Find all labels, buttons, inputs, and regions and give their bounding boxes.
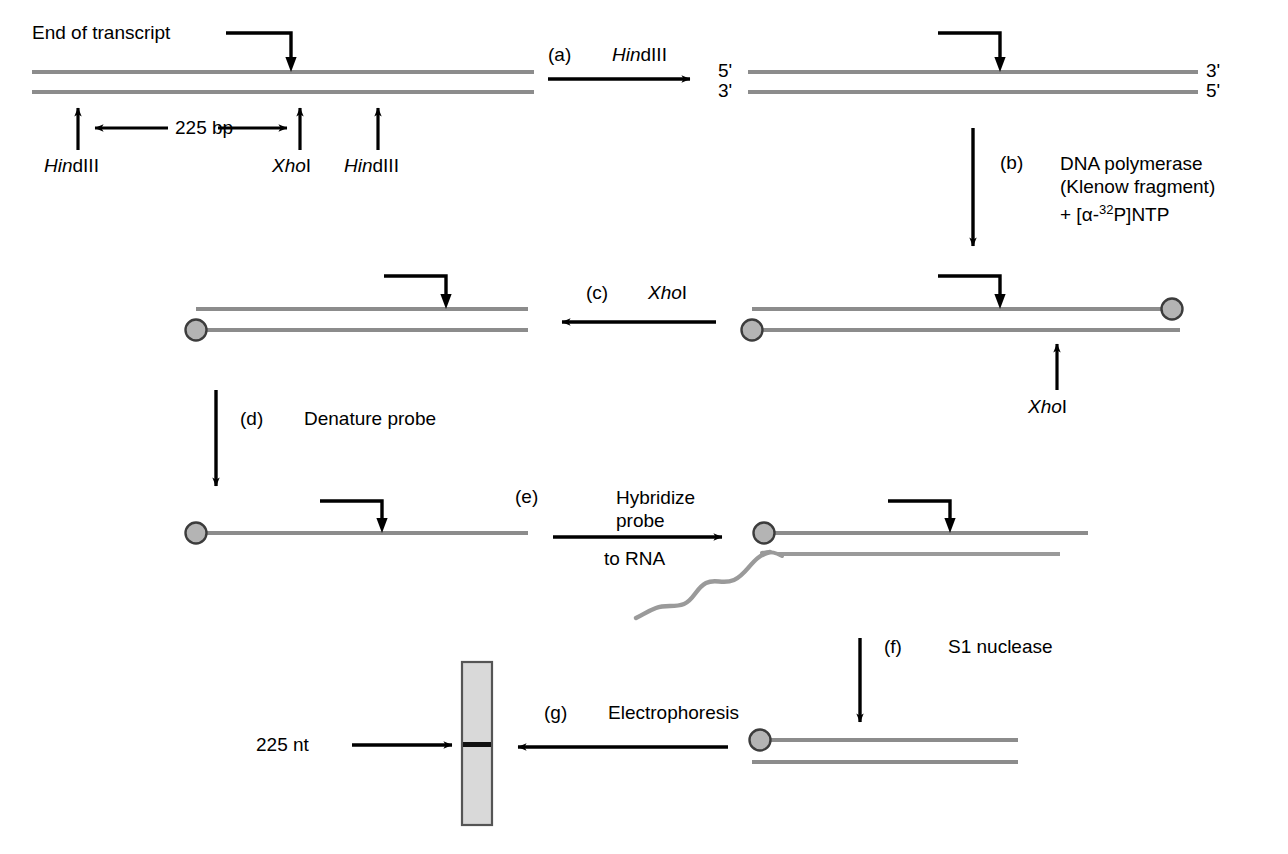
step-c-roman: I <box>682 282 687 303</box>
gel-band-size-label: 225 nt <box>256 734 309 756</box>
xhoi-top-italic: Xho <box>272 155 306 176</box>
size-label-225bp: 225 bp <box>175 117 233 139</box>
hindiii-left-roman: dIII <box>73 155 99 176</box>
xhoi-top-site-label: XhoI <box>272 155 311 177</box>
step-g-tag: (g) <box>544 702 567 724</box>
panel-genomic-dna <box>32 72 534 92</box>
step-d-label: Denature probe <box>304 408 436 430</box>
step-d-tag: (d) <box>240 408 263 430</box>
transcript-end-marker-3 <box>938 276 1006 309</box>
step-a-label: HindIII <box>612 44 667 66</box>
step-g-label: Electrophoresis <box>608 702 739 724</box>
step-e-line1: Hybridize <box>616 486 695 509</box>
step-c-label: XhoI <box>648 282 687 304</box>
panel-hindiii-fragment <box>748 72 1198 92</box>
step-b-line3: + [α-32P]NTP <box>1060 198 1215 226</box>
step-a-roman: dIII <box>641 44 667 65</box>
radiolabel-dot <box>750 730 771 751</box>
hindiii-right-roman: dIII <box>373 155 399 176</box>
xhoi-site-label-panel3: XhoI <box>1028 396 1067 418</box>
hindiii-right-site-label: HindIII <box>344 155 399 177</box>
step-b-line3-post: P]NTP <box>1113 204 1169 225</box>
xhoi-panel3-roman: I <box>1062 396 1067 417</box>
radiolabel-dot <box>186 320 207 341</box>
figure-canvas: End of transcript 225 bp HindIII XhoI Hi… <box>0 0 1288 854</box>
step-f-tag: (f) <box>884 636 902 658</box>
panel-end-labeled-fragment <box>742 299 1183 341</box>
alpha-symbol: α <box>1082 204 1093 225</box>
transcript-end-marker-5 <box>320 501 388 533</box>
panel-xhoi-cut-probe <box>186 309 529 341</box>
step-e-label-bottom: to RNA <box>604 548 665 570</box>
isotope-superscript: 32 <box>1099 202 1113 217</box>
three-prime-right-label: 3' <box>1206 60 1220 82</box>
step-b-line2: (Klenow fragment) <box>1060 175 1215 198</box>
transcript-end-marker-4 <box>384 276 452 309</box>
panel-gel-lane <box>462 662 492 825</box>
radiolabel-dot <box>742 320 763 341</box>
panel-denatured-probe <box>186 523 529 544</box>
step-b-label: DNA polymerase (Klenow fragment) + [α-32… <box>1060 152 1215 226</box>
xhoi-top-roman: I <box>306 155 311 176</box>
step-a-tag: (a) <box>548 44 571 66</box>
step-c-tag: (c) <box>586 282 608 304</box>
panel-s1-protected-duplex <box>750 730 1019 763</box>
three-prime-left-label: 3' <box>718 80 732 102</box>
step-f-label: S1 nuclease <box>948 636 1053 658</box>
step-b-tag: (b) <box>1000 152 1023 174</box>
step-b-line1: DNA polymerase <box>1060 152 1215 175</box>
step-b-line3-pre: + [ <box>1060 204 1082 225</box>
hindiii-left-site-label: HindIII <box>44 155 99 177</box>
xhoi-panel3-italic: Xho <box>1028 396 1062 417</box>
hindiii-left-italic: Hin <box>44 155 73 176</box>
step-a-italic: Hin <box>612 44 641 65</box>
step-e-label-top: Hybridize probe <box>616 486 695 532</box>
radiolabel-dot <box>186 523 207 544</box>
five-prime-right-label: 5' <box>1206 80 1220 102</box>
transcript-end-marker-6 <box>888 501 956 533</box>
step-c-italic: Xho <box>648 282 682 303</box>
hindiii-right-italic: Hin <box>344 155 373 176</box>
step-e-tag: (e) <box>515 486 538 508</box>
end-of-transcript-label: End of transcript <box>32 22 170 44</box>
radiolabel-dot <box>754 523 775 544</box>
step-e-line2: probe <box>616 509 695 532</box>
five-prime-left-label: 5' <box>718 60 732 82</box>
transcript-end-marker-1 <box>226 33 297 72</box>
radiolabel-dot <box>1162 299 1183 320</box>
gel-band <box>463 742 491 747</box>
transcript-end-marker-2 <box>938 33 1006 72</box>
